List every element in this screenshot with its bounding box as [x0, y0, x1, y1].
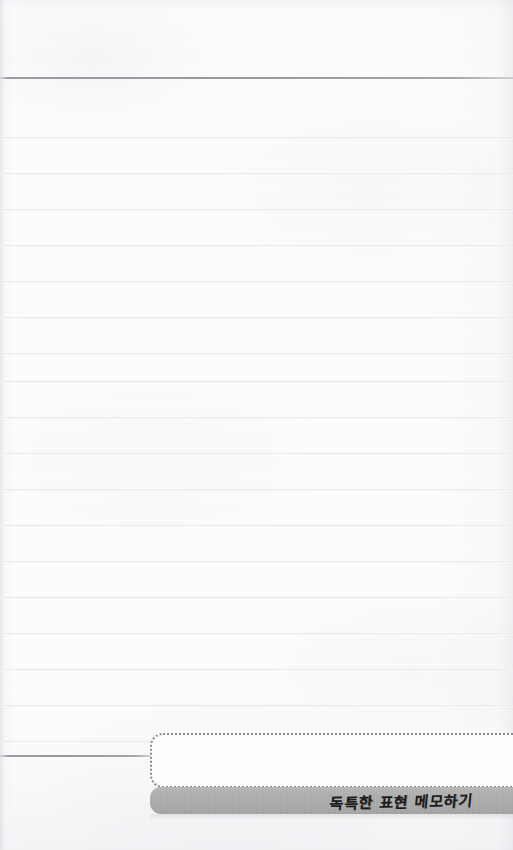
ruled-line-4	[0, 245, 513, 246]
ruled-line-9	[0, 417, 513, 418]
ruled-line-6	[0, 317, 513, 318]
ruled-line-13	[0, 561, 513, 562]
ruled-line-15	[0, 633, 513, 634]
top-divider-rule	[0, 77, 513, 79]
bottom-divider-rule	[0, 755, 152, 757]
paper-background	[0, 0, 513, 850]
ruled-line-3	[0, 209, 513, 210]
memo-dotted-box[interactable]	[150, 733, 513, 788]
memo-label-text: 독특한 표현 메모하기	[329, 788, 513, 813]
ruled-line-16	[0, 669, 513, 670]
ruled-line-10	[0, 453, 513, 454]
memo-label-bar: 독특한 표현 메모하기	[150, 787, 513, 814]
ruled-line-1	[0, 137, 513, 138]
ruled-line-14	[0, 597, 513, 598]
ruled-line-2	[0, 173, 513, 174]
ruled-line-5	[0, 281, 513, 282]
ruled-line-11	[0, 489, 513, 490]
ruled-line-7	[0, 353, 513, 354]
notebook-page: 독특한 표현 메모하기	[0, 0, 513, 850]
ruled-line-8	[0, 381, 513, 382]
ruled-line-12	[0, 525, 513, 526]
ruled-line-17	[0, 705, 513, 706]
